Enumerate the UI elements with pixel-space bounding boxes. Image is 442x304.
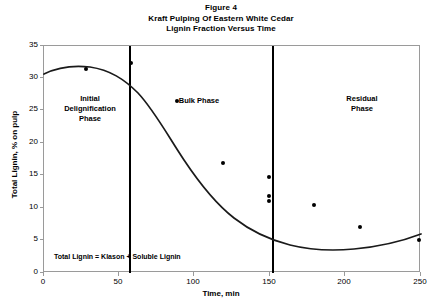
y-tick-label-35: 35 <box>10 41 38 49</box>
x-tick-label-250: 250 <box>403 278 437 286</box>
data-markers <box>84 61 421 242</box>
y-axis-title: Total Lignin, % on pulp <box>10 85 19 225</box>
data-point <box>267 199 271 203</box>
figure-container: Figure 4 Kraft Pulping Of Eastern White … <box>0 0 442 304</box>
x-tick-label-200: 200 <box>327 278 361 286</box>
x-tick-label-100: 100 <box>176 278 210 286</box>
y-tick-label-5: 5 <box>10 235 38 243</box>
x-tick-label-0: 0 <box>26 278 60 286</box>
data-point <box>358 225 362 229</box>
data-point <box>417 238 421 242</box>
data-layer <box>44 46 421 273</box>
data-point <box>267 194 271 198</box>
data-point <box>175 99 179 103</box>
data-point <box>221 161 225 165</box>
y-tick-label-0: 0 <box>10 268 38 276</box>
x-axis-title: Time, min <box>0 289 442 298</box>
data-point <box>312 203 316 207</box>
x-tick-label-150: 150 <box>252 278 286 286</box>
y-tick-label-30: 30 <box>10 73 38 81</box>
plot-area: Initial Delignification Phase Bulk Phase… <box>43 45 420 272</box>
trend-curve <box>44 66 421 250</box>
data-point <box>84 67 88 71</box>
x-tick-label-50: 50 <box>101 278 135 286</box>
data-point <box>129 61 133 65</box>
data-point <box>267 175 271 179</box>
